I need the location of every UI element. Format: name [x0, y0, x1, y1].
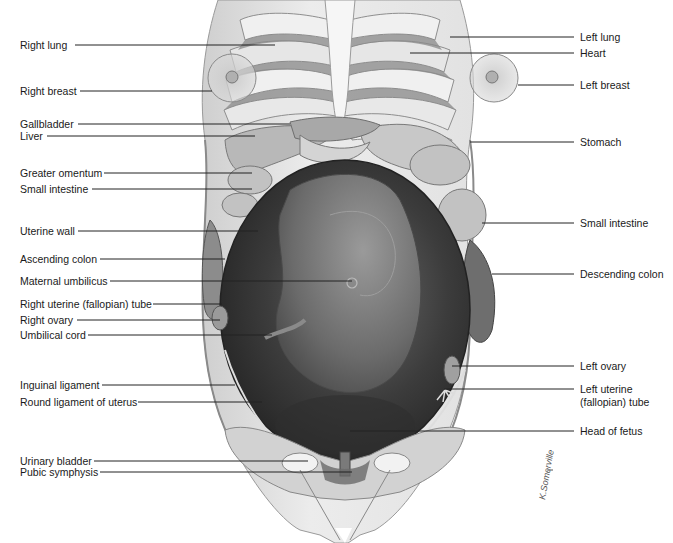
label-maternal-umbilicus: Maternal umbilicus: [20, 275, 108, 287]
label-ascending-colon: Ascending colon: [20, 253, 97, 265]
label-round-ligament: Round ligament of uterus: [20, 396, 137, 408]
label-gallbladder: Gallbladder: [20, 118, 74, 130]
label-small-intestine-left: Small intestine: [20, 183, 88, 195]
illustration: K.Somerville: [0, 0, 673, 543]
label-inguinal-ligament: Inguinal ligament: [20, 379, 99, 391]
fetus: [276, 174, 421, 392]
label-heart: Heart: [580, 47, 606, 59]
label-right-ovary: Right ovary: [20, 314, 73, 326]
label-greater-omentum: Greater omentum: [20, 167, 102, 179]
label-left-fallopian-tube-line2: (fallopian) tube: [580, 396, 649, 408]
label-head-of-fetus: Head of fetus: [580, 425, 642, 437]
label-uterine-wall: Uterine wall: [20, 225, 75, 237]
label-liver: Liver: [20, 130, 43, 142]
label-left-breast: Left breast: [580, 79, 630, 91]
label-left-fallopian-tube-line1: Left uterine: [580, 383, 633, 395]
obturator-right: [374, 453, 410, 473]
label-stomach: Stomach: [580, 136, 621, 148]
right-ovary: [212, 306, 228, 330]
label-left-lung: Left lung: [580, 31, 620, 43]
label-right-lung: Right lung: [20, 39, 67, 51]
label-small-intestine-right: Small intestine: [580, 217, 648, 229]
label-left-ovary: Left ovary: [580, 360, 626, 372]
artist-signature: K.Somerville: [537, 449, 556, 500]
anatomy-figure: K.Somerville: [0, 0, 673, 543]
left-ovary: [444, 356, 460, 384]
label-right-breast: Right breast: [20, 85, 77, 97]
label-pubic-symphysis: Pubic symphysis: [20, 466, 98, 478]
label-descending-colon: Descending colon: [580, 268, 663, 280]
label-umbilical-cord: Umbilical cord: [20, 329, 86, 341]
label-right-fallopian-tube: Right uterine (fallopian) tube: [20, 298, 152, 310]
